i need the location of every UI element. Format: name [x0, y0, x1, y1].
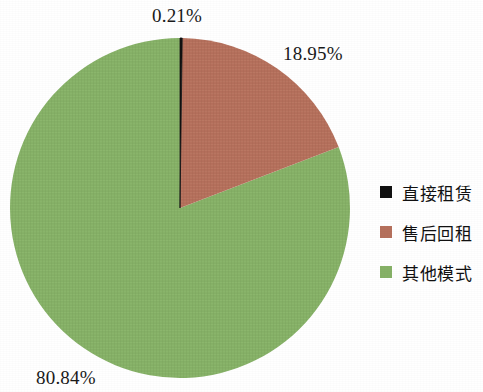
legend-label-direct-lease: 直接租赁 — [402, 180, 472, 205]
legend-item-other-modes: 其他模式 — [380, 252, 483, 292]
pie-label-direct-lease: 0.21% — [152, 6, 202, 25]
legend-item-direct-lease: 直接租赁 — [380, 172, 483, 212]
legend-swatch-other-modes — [380, 266, 392, 278]
pie-label-sale-leaseback: 18.95% — [283, 44, 343, 63]
legend: 直接租赁 售后回租 其他模式 — [380, 172, 483, 292]
legend-item-sale-leaseback: 售后回租 — [380, 212, 483, 252]
pie-chart: 0.21% 18.95% 80.84% 直接租赁 售后回租 其他模式 — [0, 0, 483, 392]
pie-label-other-modes: 80.84% — [36, 368, 96, 387]
legend-swatch-direct-lease — [380, 186, 392, 198]
legend-label-sale-leaseback: 售后回租 — [402, 220, 472, 245]
legend-label-other-modes: 其他模式 — [402, 260, 472, 285]
legend-swatch-sale-leaseback — [380, 226, 392, 238]
